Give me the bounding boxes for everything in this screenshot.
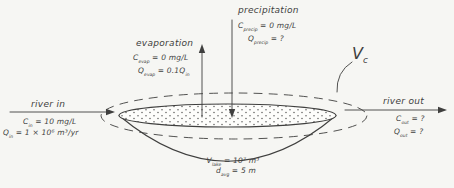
river-in-flow: Qin = 1 × 10⁶ m³/yr	[3, 128, 79, 139]
lake-surface	[119, 104, 336, 127]
evaporation-label: evaporation	[136, 38, 193, 48]
precipitation-concentration: Cprecip = 0 mg/L	[238, 21, 296, 32]
control-volume-symbol: Vc	[352, 44, 368, 65]
river-out-arrow	[345, 107, 447, 113]
precipitation-arrow	[229, 20, 235, 118]
river-out-flow: Qout = ?	[394, 127, 423, 138]
river-in-arrow	[10, 109, 115, 115]
evaporation-flow: Qevap = 0.1Qin	[138, 66, 190, 77]
evaporation-concentration: Cevap = 0 mg/L	[133, 53, 188, 64]
control-volume-leader-line	[337, 62, 352, 92]
precipitation-flow: Qprecip = ?	[248, 34, 284, 45]
river-in-label: river in	[31, 99, 65, 109]
river-out-concentration: Cout = ?	[396, 114, 425, 125]
river-in-concentration: Cin = 10 mg/L	[23, 117, 76, 128]
lake-volume: Vlake = 10⁷ m³	[193, 156, 273, 167]
river-out-label: river out	[383, 96, 424, 106]
lake-average-depth: davg = 5 m	[196, 166, 276, 177]
lake-mass-balance-diagram: evaporation Cevap = 0 mg/L Qevap = 0.1Qi…	[0, 0, 454, 188]
precipitation-label: precipitation	[238, 5, 299, 15]
